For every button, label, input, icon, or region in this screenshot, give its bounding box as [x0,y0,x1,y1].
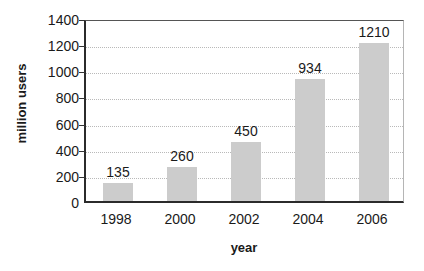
y-tick-label: 0 [34,196,79,210]
x-axis-title: year [84,240,404,255]
y-tick-mark [79,98,85,99]
bar-group: 260 [167,21,197,201]
bar-value-label: 1210 [358,25,389,39]
bar [231,142,261,201]
x-axis-tick-labels: 19982000200220042006 [84,212,404,232]
y-tick-label: 1000 [34,65,79,79]
x-tick-label: 2004 [292,212,323,226]
y-axis-tick-labels: 0200400600800100012001400 [34,20,79,203]
bar-group: 135 [103,21,133,201]
y-tick-label: 1200 [34,39,79,53]
bar [295,79,325,201]
x-tick-label: 1998 [100,212,131,226]
y-tick-label: 800 [34,91,79,105]
y-tick-label: 400 [34,144,79,158]
y-tick-label: 1400 [34,13,79,27]
x-tick-label: 2002 [228,212,259,226]
bar [359,43,389,201]
bar-group: 934 [295,21,325,201]
bar-value-label: 260 [170,149,193,163]
bar-chart: million users 0200400600800100012001400 … [0,0,424,271]
bar [103,183,133,201]
y-tick-mark [79,177,85,178]
y-tick-label: 600 [34,118,79,132]
bars-layer: 1352604509341210 [86,21,403,201]
y-tick-label: 200 [34,170,79,184]
bar-value-label: 135 [106,165,129,179]
bar-value-label: 450 [234,124,257,138]
bar-value-label: 934 [298,61,321,75]
y-tick-mark [79,72,85,73]
x-tick-label: 2006 [356,212,387,226]
bar-group: 1210 [359,21,389,201]
bar [167,167,197,201]
y-axis-title: million users [14,39,29,169]
x-tick-label: 2000 [164,212,195,226]
plot-area: 1352604509341210 [84,20,404,203]
y-tick-mark [79,46,85,47]
y-tick-mark [79,151,85,152]
bar-group: 450 [231,21,261,201]
y-tick-mark [79,20,85,21]
y-tick-mark [79,125,85,126]
